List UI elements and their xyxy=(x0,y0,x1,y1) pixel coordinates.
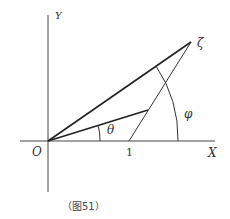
x-axis-label: X xyxy=(208,146,217,160)
theta-arc xyxy=(98,125,100,141)
zeta-label: ζ xyxy=(197,36,204,50)
phi-arc xyxy=(156,66,178,141)
diagram: Y X O 1 ζ θ φ （图51） xyxy=(0,0,230,219)
unit-label: 1 xyxy=(126,146,133,159)
segment-1-zeta xyxy=(129,42,191,141)
y-axis-label: Y xyxy=(55,10,62,21)
figure-caption: （图51） xyxy=(62,198,105,213)
theta-label: θ xyxy=(107,123,114,137)
geometry-figure xyxy=(0,0,230,219)
origin-label: O xyxy=(32,145,42,159)
phi-label: φ xyxy=(184,107,192,121)
